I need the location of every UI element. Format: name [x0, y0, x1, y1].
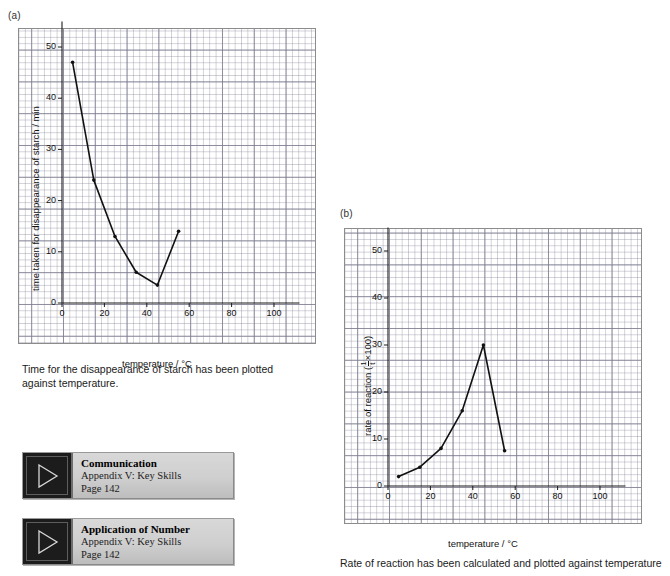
key-skill-text: Application of Number Appendix V: Key Sk… [73, 519, 233, 564]
x-tick-label: 40 [464, 491, 482, 501]
x-tick-label: 20 [421, 491, 439, 501]
x-tick-label: 100 [591, 491, 609, 501]
panel-label-b: (b) [340, 208, 353, 219]
data-point [397, 475, 401, 479]
key-skill-title: Communication [81, 457, 227, 470]
y-tick-label: 50 [360, 245, 382, 255]
x-tick-label: 0 [379, 491, 397, 501]
data-point [71, 61, 75, 65]
y-axis-title: rate of reaction (1t×100) [360, 336, 378, 436]
key-skill-box-application-of-number[interactable]: Application of Number Appendix V: Key Sk… [22, 518, 234, 565]
x-tick-label: 40 [138, 308, 156, 318]
data-point [460, 409, 464, 413]
y-tick-label: 50 [34, 41, 56, 51]
chart-b-plot [344, 228, 642, 524]
data-point [156, 283, 160, 287]
play-triangle-icon [23, 453, 73, 498]
data-point [439, 447, 443, 451]
data-point [503, 449, 507, 453]
caption-a: Time for the disappearance of starch has… [22, 362, 277, 390]
x-tick-label: 60 [180, 308, 198, 318]
panel-label-a: (a) [8, 10, 21, 21]
y-tick-label: 40 [34, 92, 56, 102]
key-skill-page: Page 142 [81, 483, 227, 496]
data-series-line [73, 62, 179, 285]
y-tick-label: 40 [360, 292, 382, 302]
data-point [482, 343, 486, 347]
data-series-line [399, 345, 505, 477]
data-point [177, 230, 181, 234]
x-tick-label: 0 [53, 308, 71, 318]
x-axis-title: temperature / °C [448, 538, 518, 549]
data-point [92, 178, 96, 182]
x-tick-label: 80 [549, 491, 567, 501]
x-tick-label: 60 [506, 491, 524, 501]
x-tick-label: 80 [223, 308, 241, 318]
y-tick-label: 0 [34, 297, 56, 307]
data-point [113, 235, 117, 239]
key-skill-subtitle: Appendix V: Key Skills [81, 536, 227, 549]
play-triangle-icon [23, 519, 73, 564]
data-point [134, 270, 138, 274]
key-skill-page: Page 142 [81, 549, 227, 562]
caption-b: Rate of reaction has been calculated and… [340, 556, 668, 570]
key-skill-subtitle: Appendix V: Key Skills [81, 470, 227, 483]
x-tick-label: 20 [95, 308, 113, 318]
key-skill-title: Application of Number [81, 523, 227, 536]
chart-a-plot [18, 28, 316, 344]
y-tick-label: 0 [360, 480, 382, 490]
x-tick-label: 100 [265, 308, 283, 318]
key-skill-box-communication[interactable]: Communication Appendix V: Key Skills Pag… [22, 452, 234, 499]
data-point [418, 465, 422, 469]
key-skill-text: Communication Appendix V: Key Skills Pag… [73, 453, 233, 498]
y-axis-title: time taken for disappearance of starch /… [30, 106, 41, 291]
